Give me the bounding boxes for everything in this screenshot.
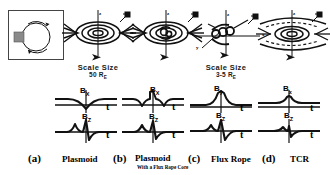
panel-c-name: Flux Rope (211, 154, 251, 164)
panel-a-topology-plasmoid (62, 6, 132, 64)
panel-d-name: TCR (290, 154, 309, 164)
panel-c-taxis-top: t (240, 103, 243, 113)
panel-a-label-bz: BZ (82, 113, 91, 123)
panel-d-axis-x-label: x (262, 32, 265, 37)
scale-size-left-line2: 50 RE (62, 72, 134, 81)
scale-size-right-line2: 3-5 RE (190, 72, 262, 81)
panel-c-axis-z-label: z (227, 12, 229, 17)
panel-c-taxis-bottom: t (240, 130, 243, 140)
panel-b-label: (b) (113, 152, 126, 164)
panel-a-taxis-bottom: t (106, 130, 109, 140)
panel-b-label-bz: BZ (149, 113, 158, 123)
panel-a-axis-z-label: z (99, 11, 101, 16)
panel-b-taxis-bottom: t (172, 130, 175, 140)
panel-c-topology-flux-rope (190, 6, 260, 64)
panel-d-taxis-bottom: t (310, 130, 313, 140)
panel-d-taxis-top: t (310, 103, 313, 113)
panel-c-axis-y-label: y (196, 45, 199, 50)
panel-b-taxis-top: t (172, 102, 175, 112)
panel-b-axis-x-label: x (131, 30, 134, 35)
panel-a-label-bx: BX (80, 87, 89, 97)
panel-c-label-bz: BZ (216, 112, 225, 122)
panel-d-axis-z-label: z (293, 11, 295, 16)
panel-c-label: (c) (188, 152, 200, 164)
panel-a-name: Plasmoid (62, 154, 98, 164)
panel-b-subname: With a Flux Rope Core (137, 164, 188, 170)
scale-size-left: Scale Size 50 RE (62, 64, 134, 80)
scale-size-right: Scale Size 3-5 RE (190, 64, 262, 80)
panel-c-axis-x-label: x (191, 31, 194, 36)
panel-b-name: Plasmoid (135, 153, 171, 163)
figure-magnetotail-structures: z (0, 0, 330, 175)
panel-d-label-bz: BZ (284, 112, 293, 122)
panel-b-axis-z-label: z (167, 11, 169, 16)
panel-a-label: (a) (28, 152, 41, 164)
panel-d-label: (d) (262, 152, 275, 164)
panel-d-label-bx: Bx (283, 85, 292, 95)
panel-b-label-bx: BX (150, 86, 159, 96)
panel-c-label-by: By (214, 85, 223, 95)
panel-d-topology-tcr (256, 6, 328, 64)
panel-a-taxis-top: t (106, 102, 109, 112)
panel-a-topology-inset (4, 4, 70, 62)
